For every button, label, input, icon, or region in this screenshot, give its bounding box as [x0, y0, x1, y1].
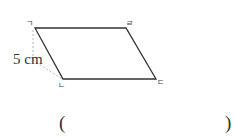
answer-open-paren: (: [59, 112, 65, 134]
height-measurement-label: 5 cm: [13, 51, 43, 67]
parallelogram-figure: ㄱ ㄹ ㄴ ㄷ 5 cm: [0, 0, 235, 137]
vertex-label-bottom-left: ㄴ: [58, 81, 65, 90]
answer-close-paren: ): [225, 112, 231, 134]
vertex-label-bottom-right: ㄷ: [157, 78, 164, 87]
vertex-label-top-left: ㄱ: [26, 19, 33, 28]
parallelogram-shape: [35, 28, 156, 79]
vertex-label-top-right: ㄹ: [126, 19, 133, 28]
